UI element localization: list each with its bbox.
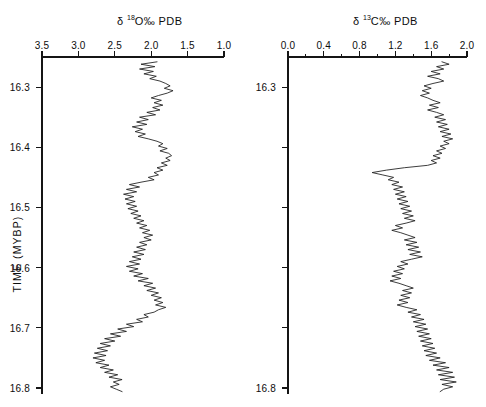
- x-tick-label: 1.5: [180, 40, 195, 51]
- x-tick-label: 0.8: [352, 40, 367, 51]
- y-axis-title: TIME (MYBP): [11, 211, 23, 297]
- panel-delta-18o: δ 18O‰ PDB TIME (MYBP) 3.53.02.52.01.51.…: [0, 0, 243, 407]
- y-tick-label: 16.8: [6, 383, 30, 394]
- y-tick-label: 16.5: [6, 202, 30, 213]
- plot-right-svg: [243, 0, 486, 407]
- x-tick-label: 0.4: [317, 40, 332, 51]
- x-tick-label: 0.0: [281, 40, 296, 51]
- panel-delta-13c: δ 13C‰ PDB 0.00.40.81.21.62.016.316.8: [243, 0, 486, 407]
- y-tick-label: 16.3: [6, 82, 30, 93]
- plot-left-svg: [0, 0, 243, 407]
- series-line: [93, 62, 173, 392]
- x-tick-label: 1.0: [217, 40, 232, 51]
- x-tick-label: 2.0: [144, 40, 159, 51]
- series-line: [372, 62, 456, 392]
- x-tick-label: 2.5: [108, 40, 123, 51]
- x-tick-label: 3.5: [35, 40, 50, 51]
- y-tick-label: 16.3: [252, 82, 276, 93]
- y-tick-label: 16.6: [6, 262, 30, 273]
- x-tick-label: 1.2: [388, 40, 403, 51]
- y-tick-label: 16.7: [6, 322, 30, 333]
- y-tick-label: 16.4: [6, 142, 30, 153]
- x-tick-label: 2.0: [460, 40, 475, 51]
- x-tick-label: 3.0: [71, 40, 86, 51]
- isotope-stratigraphy-figure: δ 18O‰ PDB TIME (MYBP) 3.53.02.52.01.51.…: [0, 0, 486, 407]
- x-tick-label: 1.6: [424, 40, 439, 51]
- y-tick-label: 16.8: [252, 383, 276, 394]
